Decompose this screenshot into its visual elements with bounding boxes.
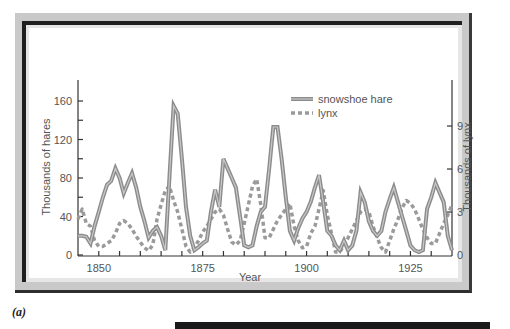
legend-label-lynx: lynx — [318, 107, 338, 119]
left-tick-label: 0 — [66, 249, 72, 261]
left-axis-title: Thousands of hares — [40, 118, 52, 216]
x-tick-label: 1900 — [294, 262, 318, 274]
legend-item-lynx: lynx — [291, 107, 338, 119]
left-tick-label: 80 — [60, 172, 72, 184]
figure-caption: (a) — [12, 305, 26, 320]
legend: snowshoe hare lynx — [291, 93, 393, 119]
right-axis-title: Thousands of lynx — [461, 122, 473, 212]
left-tick-label: 40 — [60, 211, 72, 223]
right-tick-label: 0 — [457, 249, 463, 261]
left-tick-label: 160 — [54, 95, 72, 107]
x-tick-label: 1850 — [87, 262, 111, 274]
x-axis-title: Year — [239, 271, 262, 283]
legend-label-hare: snowshoe hare — [318, 93, 393, 105]
x-axis: 1850187519001925 — [78, 251, 452, 274]
chart-svg: 04080120160 0369 1850187519001925 Thousa… — [0, 0, 510, 329]
left-tick-label: 120 — [54, 134, 72, 146]
legend-item-hare: snowshoe hare — [291, 93, 393, 105]
x-tick-label: 1925 — [398, 262, 422, 274]
next-figure-edge — [175, 322, 490, 329]
x-tick-label: 1875 — [190, 262, 214, 274]
